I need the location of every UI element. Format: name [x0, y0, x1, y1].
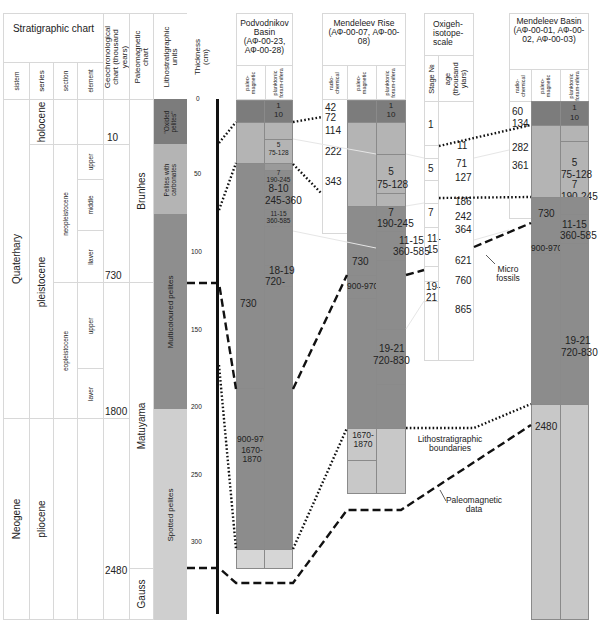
faint-guide-lines — [293, 139, 509, 329]
annotation-micro-fossils: Micro fossils — [488, 265, 528, 283]
annotation-litho-boundaries: Lithostratigraphic boundaries — [414, 435, 486, 453]
micro-pointer — [486, 255, 495, 264]
litho-boundary-lines — [219, 117, 531, 549]
annotation-paleomag-data: Paleomagnetic data — [444, 496, 504, 514]
paleomag-lines — [187, 223, 531, 583]
correlation-lines — [0, 0, 603, 626]
